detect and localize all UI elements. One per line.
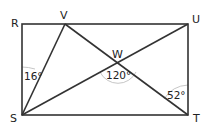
label-u: U [192,13,200,26]
angle-label-utv: 52° [167,89,186,101]
label-t: T [192,112,200,125]
label-w: W [112,48,123,61]
label-s: S [10,112,17,125]
geometry-diagram: R V U W S T 16° 120° 52° [0,0,212,129]
label-r: R [11,17,19,30]
angle-label-swt: 120° [106,69,131,81]
segment-su [22,24,188,115]
label-v: V [60,9,68,22]
angle-label-rsv: 16° [24,70,43,82]
arc-angle-rsv [22,67,35,69]
